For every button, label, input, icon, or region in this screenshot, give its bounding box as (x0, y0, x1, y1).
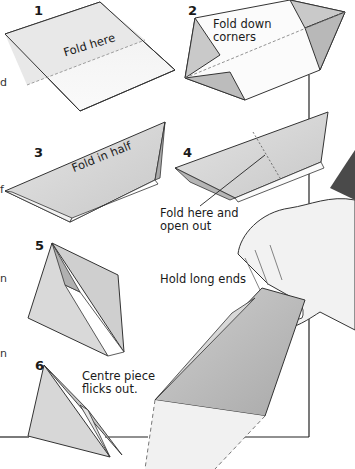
step-4-caption-line2: open out (160, 220, 239, 233)
pulled-shape (145, 288, 305, 469)
step-6-caption-line2: flicks out. (82, 383, 155, 396)
step-5-number: 5 (35, 238, 44, 253)
step-3-shape (5, 122, 165, 222)
step-1-number: 1 (34, 3, 43, 18)
left-edge-fragment: f (0, 183, 4, 196)
step-4-caption: Fold here and open out (160, 207, 239, 233)
step-5-shape (28, 243, 124, 356)
step-2-caption-line2: corners (213, 31, 271, 44)
left-edge-fragment: n (0, 272, 7, 285)
step-2-sheet (185, 0, 345, 100)
step-4-number: 4 (183, 145, 192, 160)
left-edge-fragment: n (0, 347, 7, 360)
step-1-sheet (5, 2, 175, 111)
left-edge-fragment: d (0, 76, 7, 89)
step-2-number: 2 (188, 3, 197, 18)
step-6-caption: Centre piece flicks out. (82, 370, 155, 396)
step-3-number: 3 (34, 145, 43, 160)
hold-caption: Hold long ends (160, 273, 246, 286)
step-6-number: 6 (35, 358, 44, 373)
step-2-caption: Fold down corners (213, 18, 271, 44)
step-4-shape (175, 112, 328, 206)
origami-illustration (0, 0, 355, 469)
